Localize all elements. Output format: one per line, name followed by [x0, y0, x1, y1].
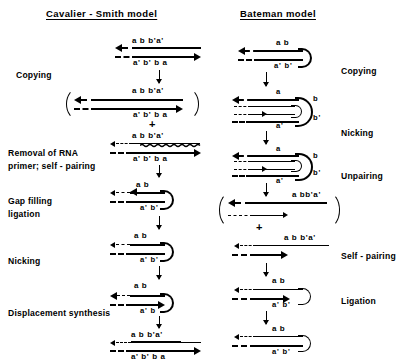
strand-outer-top	[252, 99, 299, 101]
sequence-label: a b b'a'	[131, 330, 163, 339]
sequence-label: a' b' b a	[133, 154, 168, 163]
arrowhead-right	[281, 251, 288, 259]
strand-top	[256, 289, 303, 290]
strand-dashed	[240, 336, 256, 337]
strand-dashed	[74, 108, 97, 110]
strand-dashed	[110, 152, 132, 154]
arrowhead-left	[228, 199, 235, 207]
arrowhead-left	[234, 243, 239, 249]
step-label-gap-filling: Gap filling	[8, 196, 52, 207]
strand-inner-top	[251, 161, 295, 162]
strand-dashed	[110, 304, 132, 306]
strand-bottom	[256, 254, 282, 256]
hairpin-loop	[298, 288, 311, 305]
strand-dashed	[234, 161, 251, 162]
unpairing-arc-right	[175, 88, 199, 120]
strand-dashed	[228, 215, 253, 216]
arrowhead-right	[283, 212, 288, 218]
unpairing-arc-left	[219, 192, 243, 228]
arrowhead-left	[110, 190, 115, 196]
sequence-label: a' b	[140, 306, 156, 315]
sequence-label: a	[276, 144, 281, 153]
hairpin-loop	[160, 242, 174, 262]
step-label-primer-self-pairing: primer; self - pairing	[8, 161, 96, 172]
sequence-label: a' b'	[140, 255, 159, 264]
sequence-label: a b b'a'	[132, 36, 164, 45]
plus-sign: +	[149, 119, 155, 130]
strand-top	[97, 99, 183, 101]
column-title-cavalier-smith: Cavalier - Smith model	[46, 8, 157, 19]
plus-sign: +	[256, 222, 262, 233]
step-label-unpairing: Unpairing	[341, 171, 383, 182]
arrowhead-left	[234, 287, 239, 293]
strand-dashed	[232, 121, 252, 123]
sequence-label: a' b'	[272, 300, 291, 309]
step-label-removal-of-rna: Removal of RNA	[8, 148, 78, 159]
step-label-self-pairing: Self - pairing	[341, 251, 396, 262]
hairpin-loop	[298, 48, 312, 68]
arrowhead-left	[110, 242, 115, 248]
strand-dashed	[116, 192, 130, 193]
strand-dashed	[239, 99, 252, 101]
arrowhead-right	[262, 166, 267, 172]
arrowhead-left	[110, 292, 117, 300]
sequence-label: a'	[276, 176, 284, 185]
arrowhead-right	[194, 149, 201, 157]
arrowhead-right	[262, 111, 267, 117]
step-label-displacement-synthesis: Displacement synthesis	[8, 308, 110, 319]
column-title-bateman: Bateman model	[240, 8, 316, 19]
sequence-label: a' b'	[274, 61, 293, 70]
sequence-label: a b	[272, 276, 285, 285]
sequence-label: b	[313, 151, 318, 160]
sequence-label: a bb'a'	[292, 190, 321, 199]
sequence-label: a	[276, 87, 281, 96]
sequence-label: a b b'a'	[284, 233, 316, 242]
sequence-label: a' b' b a	[131, 352, 166, 361]
step-label-copying: Copying	[16, 70, 52, 81]
strand-dashed	[232, 175, 252, 177]
arrowhead-right	[194, 347, 201, 355]
strand-dashed	[245, 50, 258, 52]
strand-dashed	[232, 254, 256, 256]
arrowhead-left	[110, 340, 115, 346]
sequence-label: a' b'	[272, 347, 291, 356]
strand-bottom	[253, 215, 284, 216]
strand-inner-bottom	[251, 114, 295, 115]
step-label-copying: Copying	[341, 66, 377, 77]
strand-dashed	[234, 106, 251, 107]
arrowhead-left	[110, 141, 115, 147]
hairpin-loop	[160, 190, 174, 210]
sequence-label: b	[313, 94, 318, 103]
sequence-label: a b b'a'	[132, 86, 164, 95]
sequence-label: b'	[313, 168, 321, 177]
strand-dashed	[232, 298, 256, 300]
arrowhead-left	[232, 96, 239, 104]
sequence-label: a' b'	[140, 203, 159, 212]
strand-dashed	[117, 295, 130, 296]
sequence-label: a b b'a'	[132, 131, 164, 140]
strand-dashed	[122, 47, 138, 49]
sequence-label: b'	[313, 113, 321, 122]
strand-top	[258, 50, 303, 52]
arrowhead-left	[232, 152, 239, 160]
sequence-label: a' b' b a	[133, 58, 168, 67]
strand-dashed	[110, 350, 132, 352]
hairpin-loop	[298, 335, 311, 352]
strand-dashed	[116, 244, 130, 245]
strand-top	[256, 245, 329, 246]
strand-dashed	[238, 59, 260, 61]
strand-dashed	[239, 155, 252, 157]
step-label-nicking: Nicking	[341, 128, 373, 139]
unpairing-arc-left	[66, 88, 90, 120]
strand-dashed	[110, 253, 132, 255]
sequence-label: a b	[272, 324, 285, 333]
strand-top-thick	[131, 341, 181, 343]
arrowhead-left	[74, 96, 81, 104]
sequence-label: a b	[134, 231, 147, 240]
strand-inner-top	[251, 106, 295, 107]
sequence-label: a b	[136, 180, 149, 189]
strand-dashed	[116, 342, 131, 343]
strand-dashed	[232, 345, 256, 347]
unpairing-arc-right	[316, 192, 340, 228]
strand-dashed	[81, 99, 97, 101]
